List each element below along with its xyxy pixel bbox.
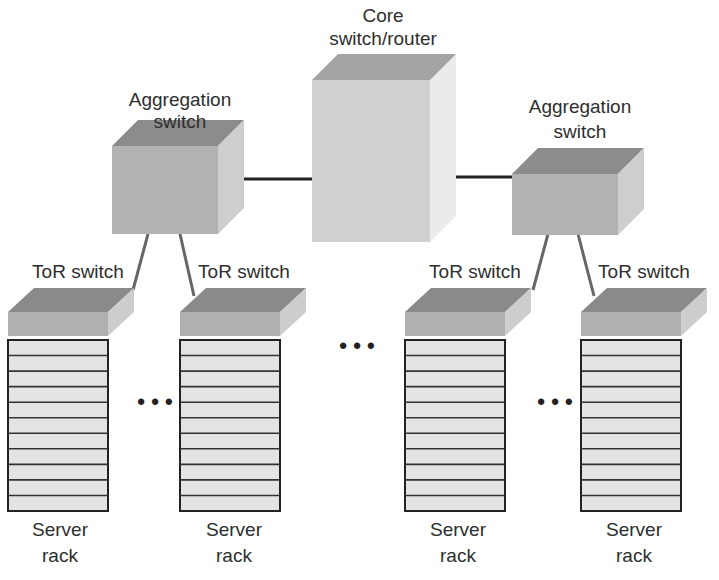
ellipsis-middle: • • • (339, 333, 374, 358)
tor-switch-and-rack-4 (581, 288, 707, 511)
rack-label-2-line2: rack (216, 545, 252, 566)
core-switch-side (430, 54, 456, 242)
core-switch-front (312, 80, 430, 242)
server-rack-4[interactable] (581, 340, 681, 511)
tor-switch-and-rack-1 (8, 288, 134, 511)
datacenter-topology-diagram: Core switch/router Aggregation switch Ag… (0, 0, 719, 580)
tor-label-2: ToR switch (198, 261, 290, 282)
aggregation-switch-right[interactable] (512, 148, 644, 235)
racks-layer (8, 288, 707, 511)
tor-switch-and-rack-2 (180, 288, 306, 511)
tor-switch-front (581, 312, 681, 336)
server-rack-frame (581, 340, 681, 511)
link-agg-tor-4 (578, 234, 594, 296)
rack-label-4-line2: rack (616, 545, 652, 566)
aggregation-label-right-2: switch (554, 121, 607, 142)
link-agg-tor-2 (180, 234, 194, 296)
tor-label-1: ToR switch (32, 261, 124, 282)
core-switch-label-1: Core (362, 5, 403, 26)
tor-switch-2[interactable] (180, 288, 306, 336)
tor-label-3: ToR switch (429, 261, 521, 282)
rack-label-1-line1: Server (32, 519, 89, 540)
link-agg-tor-1 (133, 234, 148, 290)
agg-left-front (112, 146, 218, 234)
tor-switch-and-rack-3 (405, 288, 531, 511)
server-rack-3[interactable] (405, 340, 505, 511)
tor-switch-front (405, 312, 505, 336)
aggregation-label-left-1: Aggregation (129, 89, 231, 110)
server-rack-frame (405, 340, 505, 511)
core-switch-label-2: switch/router (329, 28, 437, 49)
rack-label-2-line1: Server (206, 519, 263, 540)
tor-switch-3[interactable] (405, 288, 531, 336)
aggregation-label-right-1: Aggregation (529, 96, 631, 117)
server-rack-1[interactable] (8, 340, 108, 511)
tor-switch-4[interactable] (581, 288, 707, 336)
rack-label-4-line1: Server (606, 519, 663, 540)
rack-label-1-line2: rack (42, 545, 78, 566)
ellipsis-right: • • • (537, 389, 572, 414)
tor-switch-front (180, 312, 280, 336)
tor-switch-front (8, 312, 108, 336)
ellipsis-left: • • • (137, 389, 172, 414)
tor-label-4: ToR switch (598, 261, 690, 282)
server-rack-frame (180, 340, 280, 511)
rack-label-3-line1: Server (430, 519, 487, 540)
server-rack-frame (8, 340, 108, 511)
aggregation-switch-left[interactable] (112, 120, 244, 234)
link-agg-tor-3 (533, 234, 548, 290)
rack-label-3-line2: rack (440, 545, 476, 566)
tor-switch-1[interactable] (8, 288, 134, 336)
server-rack-2[interactable] (180, 340, 280, 511)
agg-right-front (512, 174, 618, 235)
core-switch[interactable] (312, 54, 456, 242)
aggregation-label-left-2: switch (154, 111, 207, 132)
